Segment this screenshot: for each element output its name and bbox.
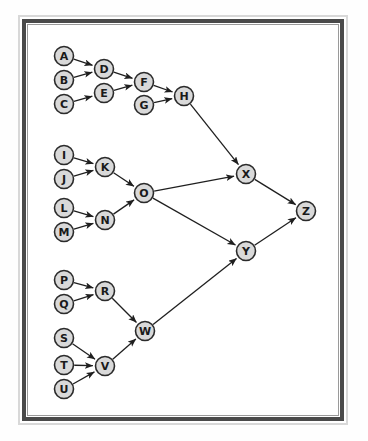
node-circle-z xyxy=(297,202,316,221)
graph-node-q[interactable]: Q xyxy=(55,295,74,314)
graph-node-t[interactable]: T xyxy=(55,356,74,375)
node-circle-b xyxy=(55,71,74,90)
node-circle-e xyxy=(95,84,114,103)
node-circle-f xyxy=(135,73,154,92)
graph-edge-d-to-f xyxy=(114,72,133,78)
graph-node-d[interactable]: D xyxy=(95,60,114,79)
node-circle-q xyxy=(55,295,74,314)
graph-node-p[interactable]: P xyxy=(55,271,74,290)
graph-edge-p-to-r xyxy=(74,283,93,288)
graph-edge-h-to-x xyxy=(190,104,238,164)
graph-edge-a-to-d xyxy=(74,59,93,65)
node-circle-u xyxy=(55,380,74,399)
graph-nodes-layer: ABCDEFGHIJKLMNOPQRSTUVWXYZ xyxy=(55,47,316,399)
graph-edge-l-to-n xyxy=(74,211,94,217)
node-circle-t xyxy=(55,356,74,375)
node-circle-v xyxy=(96,357,115,376)
node-circle-i xyxy=(55,146,74,165)
graph-edge-k-to-o xyxy=(114,173,134,187)
node-circle-c xyxy=(55,95,74,114)
graph-node-c[interactable]: C xyxy=(55,95,74,114)
graph-node-m[interactable]: M xyxy=(55,223,74,242)
graph-node-g[interactable]: G xyxy=(135,96,154,115)
graph-edge-y-to-z xyxy=(255,218,296,246)
graph-node-s[interactable]: S xyxy=(55,329,74,348)
graph-edge-b-to-d xyxy=(74,72,92,77)
graph-edge-s-to-v xyxy=(73,344,96,359)
node-circle-l xyxy=(55,199,74,218)
figure-root: ABCDEFGHIJKLMNOPQRSTUVWXYZ xyxy=(0,0,368,441)
graph-node-l[interactable]: L xyxy=(55,199,74,218)
directed-graph-svg: ABCDEFGHIJKLMNOPQRSTUVWXYZ xyxy=(27,24,339,416)
graph-edge-w-to-y xyxy=(153,259,236,325)
node-circle-m xyxy=(55,223,74,242)
graph-edge-u-to-v xyxy=(73,372,94,384)
graph-edge-g-to-h xyxy=(154,99,172,103)
node-circle-x xyxy=(237,165,256,184)
graph-node-w[interactable]: W xyxy=(136,322,155,341)
graph-edge-q-to-r xyxy=(74,295,94,301)
graph-edge-o-to-x xyxy=(154,176,234,191)
graph-node-k[interactable]: K xyxy=(96,158,115,177)
graph-node-z[interactable]: Z xyxy=(297,202,316,221)
node-circle-o xyxy=(135,184,154,203)
graph-node-u[interactable]: U xyxy=(55,380,74,399)
node-circle-y xyxy=(237,242,256,261)
graph-node-v[interactable]: V xyxy=(96,357,115,376)
node-circle-k xyxy=(96,158,115,177)
graph-edge-v-to-w xyxy=(113,339,136,359)
graph-node-e[interactable]: E xyxy=(95,84,114,103)
graph-node-j[interactable]: J xyxy=(55,170,74,189)
graph-node-x[interactable]: X xyxy=(237,165,256,184)
node-circle-w xyxy=(136,322,155,341)
graph-node-r[interactable]: R xyxy=(96,282,115,301)
graph-edge-o-to-y xyxy=(153,198,236,245)
node-circle-r xyxy=(96,282,115,301)
node-circle-s xyxy=(55,329,74,348)
graph-node-y[interactable]: Y xyxy=(237,242,256,261)
graph-edge-e-to-f xyxy=(114,85,132,90)
graph-edge-x-to-z xyxy=(255,179,296,204)
graph-node-o[interactable]: O xyxy=(135,184,154,203)
graph-edge-n-to-o xyxy=(113,200,134,214)
graph-edge-j-to-k xyxy=(74,170,94,176)
graph-edge-f-to-h xyxy=(154,85,173,92)
graph-edge-c-to-e xyxy=(74,96,92,101)
graph-canvas: ABCDEFGHIJKLMNOPQRSTUVWXYZ xyxy=(27,24,339,416)
node-circle-h xyxy=(175,87,194,106)
graph-edge-m-to-n xyxy=(74,223,94,229)
graph-node-n[interactable]: N xyxy=(96,211,115,230)
node-circle-p xyxy=(55,271,74,290)
node-circle-d xyxy=(95,60,114,79)
graph-node-h[interactable]: H xyxy=(175,87,194,106)
node-circle-j xyxy=(55,170,74,189)
graph-edge-i-to-k xyxy=(74,158,94,164)
node-circle-g xyxy=(135,96,154,115)
graph-edge-r-to-w xyxy=(112,298,136,322)
graph-node-f[interactable]: F xyxy=(135,73,154,92)
graph-node-a[interactable]: A xyxy=(55,47,74,66)
graph-node-i[interactable]: I xyxy=(55,146,74,165)
node-circle-n xyxy=(96,211,115,230)
node-circle-a xyxy=(55,47,74,66)
graph-node-b[interactable]: B xyxy=(55,71,74,90)
